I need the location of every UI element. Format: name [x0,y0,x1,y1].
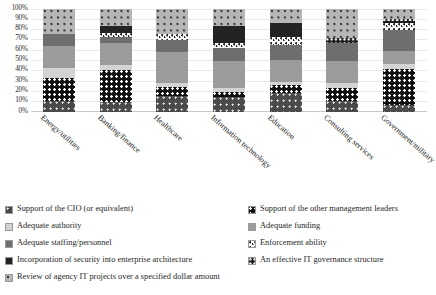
legend-item-label: Incorporation of security into enterpris… [17,254,192,265]
bar-segment[interactable] [213,9,245,27]
y-axis-tick-label: 80% [15,25,28,32]
legend-item[interactable]: Adequate authority [5,220,250,237]
bar-segment[interactable] [156,52,188,83]
bar-segment[interactable] [270,37,302,44]
legend-swatch-icon [5,257,13,265]
bar-healthcare[interactable] [156,9,188,112]
bar-segment[interactable] [156,87,188,96]
bars-layer [31,9,427,112]
bar-segment[interactable] [213,48,245,61]
y-axis: 100%90%80%70%60%50%40%30%20%10%0% [0,6,30,112]
y-axis-tick-label: 70% [15,35,28,42]
legend-item-label: Support of the CIO (or equivalent) [17,203,133,214]
legend-item-label: Adequate authority [17,220,81,231]
bar-consulting-services[interactable] [326,9,358,112]
bar-segment[interactable] [100,26,132,33]
bar-segment[interactable] [383,105,415,111]
y-axis-tick-label: 40% [15,66,28,73]
y-axis-tick-label: 20% [15,87,28,94]
y-axis-tick-label: 30% [15,77,28,84]
y-axis-tick-label: 50% [15,56,28,63]
bar-segment[interactable] [270,23,302,37]
bar-segment[interactable] [213,61,245,88]
bar-segment[interactable] [326,61,358,83]
legend-item-label: Support of the other management leaders [260,203,398,214]
bar-banking-finance[interactable] [100,9,132,112]
bar-information-technology[interactable] [213,9,245,112]
bar-segment[interactable] [43,9,75,35]
bar-segment[interactable] [326,43,358,62]
chart-legend: Support of the CIO (or equivalent)Adequa… [0,203,430,295]
legend-column-left: Support of the CIO (or equivalent)Adequa… [5,203,250,288]
x-axis-tick-label: Information technology [209,113,273,170]
bar-segment[interactable] [100,9,132,27]
x-axis-tick-label: Healthcare [153,113,185,143]
legend-swatch-icon [248,223,256,231]
legend-item[interactable]: An effective IT governance structure [248,254,430,271]
bar-segment[interactable] [43,34,75,45]
bar-segment[interactable] [156,9,188,35]
legend-item-label: Adequate funding [260,220,320,231]
bar-segment[interactable] [100,43,132,66]
bar-education[interactable] [270,9,302,112]
bar-segment[interactable] [43,68,75,77]
legend-swatch-icon [5,274,13,282]
legend-swatch-icon [5,223,13,231]
y-axis-tick-label: 0% [19,108,28,115]
legend-swatch-icon [5,240,13,248]
legend-item[interactable]: Incorporation of security into enterpris… [5,254,250,271]
bar-segment[interactable] [213,26,245,42]
y-axis-tick-label: 90% [15,15,28,22]
bar-segment[interactable] [156,40,188,51]
x-axis-tick-label: Consulting services [322,113,376,162]
bar-segment[interactable] [270,85,302,93]
bar-segment[interactable] [213,97,245,111]
bar-segment[interactable] [326,101,358,111]
bar-segment[interactable] [43,46,75,69]
legend-swatch-icon [248,240,256,248]
legend-item-label: An effective IT governance structure [260,254,383,265]
x-axis-tick-label: Energy/utilities [39,113,82,152]
bar-segment[interactable] [383,30,415,51]
bar-segment[interactable] [326,9,358,39]
bar-segment[interactable] [100,70,132,102]
bar-energy-utilities[interactable] [43,9,75,112]
bar-segment[interactable] [270,60,302,82]
legend-item-label: Review of agency IT projects over a spec… [17,271,220,282]
bar-segment[interactable] [326,88,358,101]
bar-segment[interactable] [270,93,302,112]
bar-government-military[interactable] [383,9,415,112]
x-axis-tick-label: Education [266,113,297,141]
bar-segment[interactable] [43,101,75,111]
legend-item[interactable]: Support of the CIO (or equivalent) [5,203,250,220]
legend-swatch-icon [248,206,256,214]
x-axis-labels: Energy/utilitiesBanking/financeHealthcar… [31,113,427,195]
bar-segment[interactable] [100,102,132,111]
legend-item-label: Enforcement ability [260,237,327,248]
bar-segment[interactable] [383,23,415,30]
y-axis-tick-label: 10% [15,97,28,104]
y-axis-tick-label: 60% [15,46,28,53]
bar-segment[interactable] [270,9,302,23]
bar-segment[interactable] [383,9,415,19]
x-axis-tick-label: Banking/finance [96,113,142,155]
bar-segment[interactable] [383,69,415,105]
bar-segment[interactable] [43,78,75,102]
bar-segment[interactable] [383,51,415,64]
legend-item[interactable]: Review of agency IT projects over a spec… [5,271,250,288]
legend-swatch-icon [248,257,256,265]
legend-item[interactable]: Adequate funding [248,220,430,237]
legend-item[interactable]: Adequate staffing/personnel [5,237,250,254]
legend-item-label: Adequate staffing/personnel [17,237,112,248]
legend-item[interactable]: Support of the other management leaders [248,203,430,220]
y-axis-tick-label: 100% [12,5,28,12]
legend-item[interactable]: Enforcement ability [248,237,430,254]
legend-column-right: Support of the other management leadersA… [248,203,430,271]
legend-swatch-icon [5,206,13,214]
plot-area: 100%90%80%70%60%50%40%30%20%10%0% [0,0,430,125]
bar-segment[interactable] [156,96,188,111]
bar-segment[interactable] [270,45,302,60]
